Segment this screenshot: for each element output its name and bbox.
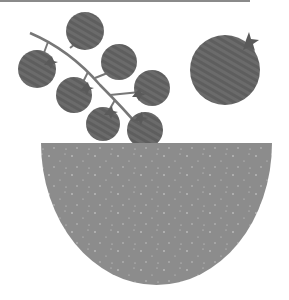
large-tomato [190, 32, 260, 105]
cherry-tomato [66, 12, 104, 50]
cherry-tomato [101, 44, 137, 80]
tomato-bowl-illustration [0, 0, 289, 300]
cherry-tomato [56, 77, 92, 113]
large-tomato-calyx-icon [243, 32, 259, 51]
cherry-tomato [18, 50, 56, 88]
cherry-tomato [134, 70, 170, 106]
bowl [41, 143, 272, 285]
